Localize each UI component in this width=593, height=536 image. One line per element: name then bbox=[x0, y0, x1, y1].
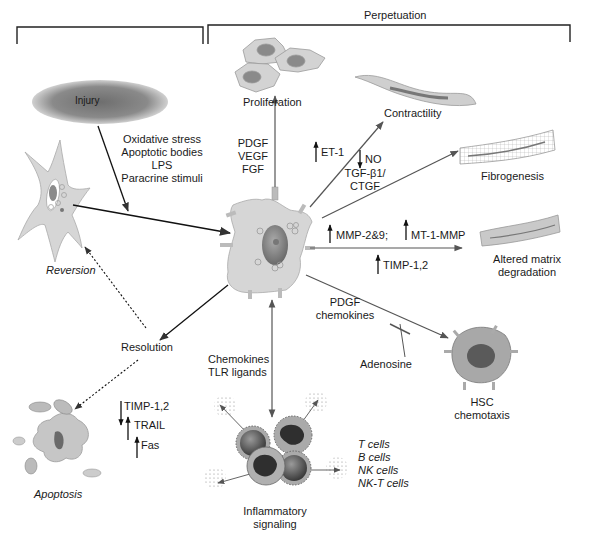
apoptosis-label: Apoptosis bbox=[34, 488, 82, 501]
contractility-cell-icon bbox=[355, 75, 476, 105]
injury-ellipse bbox=[32, 80, 168, 124]
mt1mmp-label: MT-1-MMP bbox=[411, 229, 465, 242]
resolution-arrow bbox=[160, 285, 228, 340]
et1-label: ET-1 bbox=[321, 146, 344, 159]
apoptosis-factor-timp: TIMP-1,2 bbox=[124, 400, 169, 413]
chemokines-tlr-label: Chemokines TLR ligands bbox=[208, 353, 272, 379]
proliferation-cells-icon bbox=[235, 38, 325, 92]
immune-cell-item: B cells bbox=[358, 451, 428, 464]
inflammatory-signaling-label: Inflammatory signaling bbox=[240, 505, 310, 531]
no-label: NO bbox=[365, 153, 382, 166]
quiescent-hsc-icon bbox=[18, 140, 90, 262]
apoptotic-cell-icon bbox=[13, 397, 101, 477]
growth-factor-list: PDGF VEGF FGF bbox=[236, 137, 270, 176]
apoptosis-factor-trail: TRAIL bbox=[134, 419, 165, 432]
proliferation-label: Proliferation bbox=[243, 96, 302, 109]
growth-factor-item: FGF bbox=[236, 163, 270, 176]
apoptosis-factor-fas: Fas bbox=[141, 439, 159, 452]
activated-hsc-icon bbox=[220, 187, 315, 299]
growth-factor-item: VEGF bbox=[236, 150, 270, 163]
contractility-label: Contractility bbox=[384, 107, 441, 120]
matrix-fiber-icon bbox=[480, 215, 560, 246]
hsc-chemotaxis-label: HSC chemotaxis bbox=[452, 396, 512, 422]
pdgf-chemokines-label: PDGF chemokines bbox=[315, 296, 375, 322]
immune-cells-list: T cells B cells NK cells NK-T cells bbox=[358, 438, 428, 490]
mmp-label: MMP-2&9; bbox=[336, 229, 388, 242]
reversion-arrow bbox=[85, 247, 146, 328]
resolution-label: Resolution bbox=[121, 341, 173, 354]
stimuli-list: Oxidative stress Apoptotic bodies LPS Pa… bbox=[120, 133, 204, 185]
stimulus-item: Oxidative stress bbox=[120, 133, 204, 146]
adenosine-label: Adenosine bbox=[360, 358, 412, 371]
immune-cell-item: NK-T cells bbox=[358, 477, 428, 490]
immune-cell-item: T cells bbox=[358, 438, 428, 451]
tgf-label: TGF-β1/ CTGF bbox=[342, 167, 388, 193]
inflammatory-cells-icon bbox=[204, 391, 348, 489]
hsc-chemotaxis-cell-icon bbox=[444, 325, 518, 390]
injury-label: Injury bbox=[75, 94, 99, 107]
altered-matrix-label: Altered matrix degradation bbox=[490, 253, 564, 279]
stimulus-item: Paracrine stimuli bbox=[120, 172, 204, 185]
timp-matrix-label: TIMP-1,2 bbox=[383, 259, 428, 272]
adenosine-inhibition-icon bbox=[390, 324, 410, 357]
fibrogenesis-fiber-icon bbox=[460, 130, 555, 164]
quiescent-to-activated-arrow bbox=[73, 205, 230, 233]
immune-cell-item: NK cells bbox=[358, 464, 428, 477]
stimulus-item: Apoptotic bodies bbox=[120, 146, 204, 159]
fibrogenesis-label: Fibrogenesis bbox=[481, 170, 544, 183]
initiation-bracket bbox=[17, 27, 203, 44]
reversion-label: Reversion bbox=[46, 264, 96, 277]
perpetuation-label: Perpetuation bbox=[364, 9, 426, 22]
stimulus-item: LPS bbox=[120, 159, 204, 172]
growth-factor-item: PDGF bbox=[236, 137, 270, 150]
